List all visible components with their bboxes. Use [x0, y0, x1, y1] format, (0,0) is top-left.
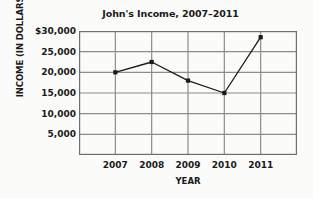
- data-point-2008: [150, 60, 154, 64]
- y-tick-label-30000: $30,000: [20, 26, 76, 36]
- data-point-2010: [222, 91, 226, 95]
- data-point-2009: [186, 79, 190, 83]
- plot-area: [79, 31, 297, 155]
- y-tick-label-20000: 20,000: [20, 67, 76, 77]
- data-point-2007: [113, 70, 117, 74]
- plot-svg: [79, 31, 297, 155]
- income-line-chart: John's Income, 2007–2011 INCOME (IN DOLL…: [0, 0, 313, 198]
- data-point-2011: [259, 35, 263, 39]
- x-axis-title: YEAR: [79, 176, 297, 186]
- y-axis-tick-labels: $30,00025,00020,00015,00010,0005,000: [18, 0, 76, 198]
- y-tick-label-25000: 25,000: [20, 47, 76, 57]
- y-tick-label-10000: 10,000: [20, 109, 76, 119]
- y-tick-label-15000: 15,000: [20, 88, 76, 98]
- grid-lines: [79, 31, 297, 155]
- y-tick-label-5000: 5,000: [20, 129, 76, 139]
- x-tick-label-2011: 2011: [238, 160, 284, 170]
